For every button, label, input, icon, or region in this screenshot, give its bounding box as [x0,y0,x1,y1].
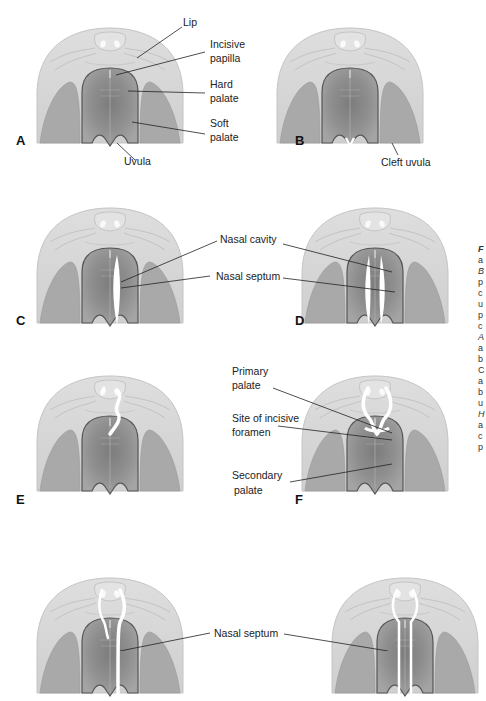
figure-caption-fragment: F a B p c u p c A a b C a b u H a c p [478,244,486,453]
panel-letter-b: B [295,133,304,148]
label-nasal-septum-bottom: Nasal septum [214,627,278,640]
caption-char: c [478,321,486,332]
label-hard-palate-line1: Hard [210,78,233,91]
caption-char: F [478,244,486,255]
panel-letter-e: E [16,492,25,507]
palate-illustration-combined-unilateral [0,550,240,701]
label-lip: Lip [183,16,197,29]
panel-h [300,560,486,651]
caption-char: u [478,299,486,310]
caption-char: c [478,288,486,299]
caption-char: p [478,310,486,321]
caption-char: b [478,387,486,398]
palate-illustration-unilateral-primary-cleft [0,348,240,518]
palate-illustration-unilateral-cleft [0,180,240,350]
label-incisive-foramen-line2: foramen [232,426,271,439]
panel-b [240,0,486,170]
label-nasal-cavity: Nasal cavity [220,233,277,246]
label-soft-palate-line1: Soft [210,117,229,130]
label-primary-palate-line2: palate [232,379,261,392]
caption-char: B [478,266,486,277]
caption-char: H [478,409,486,420]
panel-letter-c: C [16,313,25,328]
panel-letter-d: D [295,313,304,328]
panel-f [280,360,480,520]
label-cleft-uvula: Cleft uvula [381,156,431,169]
label-secondary-palate-line1: Secondary [232,469,282,482]
caption-char: c [478,431,486,442]
caption-char: a [478,376,486,387]
caption-char: A [478,332,486,343]
label-hard-palate-line2: palate [210,92,239,105]
label-nasal-septum: Nasal septum [216,270,280,283]
panel-g [0,560,240,651]
caption-char: u [478,398,486,409]
label-primary-palate-line1: Primary [232,365,268,378]
label-incisive-papilla-line2: papilla [210,52,240,65]
palate-illustration-combined-bilateral [295,550,486,701]
panel-letter-f: F [295,492,303,507]
caption-char: p [478,442,486,453]
caption-char: a [478,255,486,266]
caption-char: b [478,354,486,365]
panel-e [0,360,240,520]
label-incisive-papilla-line1: Incisive [210,38,245,51]
palate-illustration-cleft-uvula [240,0,486,170]
caption-char: C [478,365,486,376]
panel-d [280,190,480,350]
palate-illustration-normal [0,0,240,170]
caption-char: p [478,277,486,288]
label-uvula: Uvula [124,155,151,168]
panel-a [0,0,240,170]
caption-char: a [478,343,486,354]
label-incisive-foramen-line1: Site of incisive [232,412,299,425]
label-secondary-palate-line2: palate [234,484,263,497]
caption-char: a [478,420,486,431]
panel-letter-a: A [16,133,25,148]
label-soft-palate-line2: palate [210,131,239,144]
panel-c [0,190,240,350]
